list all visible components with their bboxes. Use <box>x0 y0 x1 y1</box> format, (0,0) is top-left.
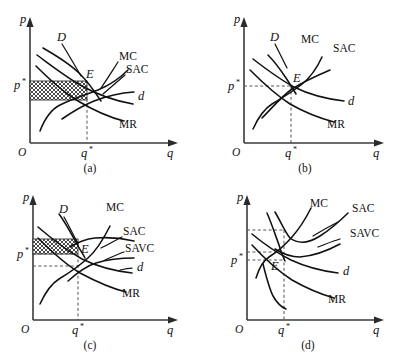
panel-a-label-E: E <box>85 67 94 81</box>
panel-b-label-d: d <box>348 94 355 108</box>
panel-b-label-E: E <box>292 71 301 85</box>
panel-c-label-d: d <box>137 260 144 274</box>
panel-c-y-axis-label: p <box>22 190 29 204</box>
panel-a-y-axis-label: p <box>19 12 26 26</box>
panel-b-y-axis-label: p <box>233 12 240 26</box>
panel-c: p q O p * q * D MC SAC SAVC d MR E (c) <box>16 190 178 352</box>
panel-d-y-axis-arrow <box>243 195 250 205</box>
panel-d-x-tick-label: q <box>278 323 284 337</box>
panel-c-label-MR: MR <box>122 287 140 299</box>
panel-d-x-tick-star: * <box>286 322 290 331</box>
panel-c-x-axis-label: q <box>167 323 173 337</box>
panel-a-y-axis-arrow <box>26 17 33 27</box>
panel-a-label-D: D <box>56 30 66 44</box>
panel-c-leader-SAC <box>101 237 122 248</box>
panel-b-label-SAC: SAC <box>333 42 356 54</box>
panel-d-curve-steep <box>267 213 285 261</box>
panel-d-curve-SAVC <box>275 244 340 257</box>
panel-b-x-axis-label: q <box>373 146 379 160</box>
panel-b-x-tick-star: * <box>293 145 297 154</box>
panel-c-y-tick-star: * <box>25 246 29 255</box>
panel-c-caption: (c) <box>84 339 97 352</box>
panel-b-caption: (b) <box>298 162 312 175</box>
panel-c-leader-d <box>120 268 132 270</box>
panel-a-x-tick-star: * <box>89 145 93 154</box>
panel-d-label-MC: MC <box>310 197 328 209</box>
panel-b-x-tick-label: q <box>285 146 291 160</box>
panel-b-y-tick-star: * <box>236 78 240 87</box>
panel-a-label-d: d <box>138 89 145 103</box>
panel-c-label-E: E <box>80 242 89 256</box>
panel-c-label-SAC: SAC <box>123 225 146 237</box>
panel-d-label-SAC: SAC <box>352 202 375 214</box>
panel-b-curve-MR <box>250 70 334 122</box>
panel-d-origin-label: O <box>235 323 244 335</box>
panel-b-y-axis-arrow <box>240 17 247 27</box>
panel-a-leader-SAC <box>103 75 125 94</box>
panel-b: p q O p * q * D MC SAC d MR E (b) <box>227 12 384 175</box>
panel-a: p q O p * q * D MC SAC d MR E (a) <box>13 12 178 175</box>
panel-a-label-MC: MC <box>119 50 137 62</box>
panel-c-x-tick-label: q <box>72 323 78 337</box>
panel-d-axes <box>243 195 384 324</box>
panel-c-label-MC: MC <box>106 201 124 213</box>
panel-d-label-E: E <box>270 259 279 273</box>
panel-c-y-axis-arrow <box>29 195 36 205</box>
panel-d-y-axis-label: p <box>236 190 243 204</box>
panel-d: p q O p * q * MC SAC SAVC d MR E (d) <box>230 190 384 352</box>
panel-b-curve-D <box>268 55 296 94</box>
panel-b-origin-label: O <box>232 146 241 158</box>
panel-c-label-SAVC: SAVC <box>125 242 155 254</box>
panel-d-label-SAVC: SAVC <box>350 227 380 239</box>
panel-a-caption: (a) <box>84 162 97 175</box>
panel-d-caption: (d) <box>301 339 315 352</box>
panel-c-label-D: D <box>58 202 68 216</box>
panel-c-x-tick-star: * <box>80 322 84 331</box>
panel-b-label-MC: MC <box>301 33 319 45</box>
panel-a-origin-label: O <box>18 146 27 158</box>
panel-d-y-tick-label: p <box>230 253 237 267</box>
panel-a-leader-D <box>62 44 81 76</box>
economics-figure: p q O p * q * D MC SAC d MR E (a) p q O <box>0 0 399 359</box>
panel-d-label-MR: MR <box>328 293 346 305</box>
panel-d-curve-SAC <box>275 212 348 242</box>
panel-b-label-D: D <box>269 30 279 44</box>
panel-c-origin-label: O <box>21 323 30 335</box>
panel-b-label-MR: MR <box>327 118 345 130</box>
panel-d-x-axis-label: q <box>373 323 379 337</box>
panel-d-y-tick-star: * <box>239 252 243 261</box>
panel-a-y-tick-label: p <box>13 78 20 92</box>
panel-d-curve-d <box>252 234 338 273</box>
panel-a-label-MR: MR <box>119 118 137 130</box>
panel-c-axes <box>29 195 178 324</box>
panel-a-label-SAC: SAC <box>126 63 149 75</box>
panel-d-label-d: d <box>343 264 350 278</box>
panel-b-y-tick-label: p <box>227 79 234 93</box>
panel-a-x-axis-label: q <box>167 146 173 160</box>
panel-c-y-tick-label: p <box>16 247 23 261</box>
panel-a-y-tick-star: * <box>22 77 26 86</box>
panel-d-leader-SAC <box>313 222 338 236</box>
panel-a-x-tick-label: q <box>81 146 87 160</box>
